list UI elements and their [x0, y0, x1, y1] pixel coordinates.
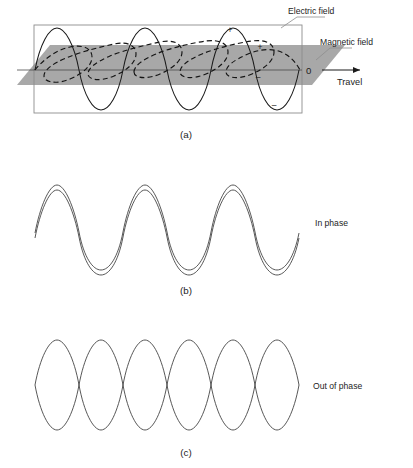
panel-a: + – + – Electric field Magnetic field 0 …	[17, 6, 373, 140]
caption-b: (b)	[180, 285, 192, 296]
caption-c: (c)	[180, 447, 191, 458]
in-phase-label: In phase	[315, 218, 348, 228]
electric-minus-sign: –	[272, 100, 277, 110]
in-phase-wave-1	[35, 185, 299, 270]
travel-arrow-icon	[322, 67, 360, 73]
out-of-phase-wave-2	[35, 340, 299, 430]
caption-a: (a)	[180, 129, 192, 140]
electric-field-leader-line	[281, 17, 325, 28]
magnetic-plus-sign: +	[258, 42, 263, 52]
panel-c: Out of phase (c)	[35, 340, 362, 458]
magnetic-field-plane	[17, 45, 345, 85]
travel-label: Travel	[337, 77, 362, 87]
origin-label: 0	[306, 65, 311, 76]
electric-plus-sign: +	[228, 25, 233, 35]
magnetic-field-label: Magnetic field	[320, 37, 373, 47]
electric-field-label: Electric field	[288, 6, 335, 16]
panel-b: In phase (b)	[35, 185, 348, 296]
magnetic-minus-sign: –	[256, 72, 261, 82]
electromagnetic-wave-figure: + – + – Electric field Magnetic field 0 …	[0, 0, 413, 468]
out-of-phase-label: Out of phase	[313, 381, 362, 391]
